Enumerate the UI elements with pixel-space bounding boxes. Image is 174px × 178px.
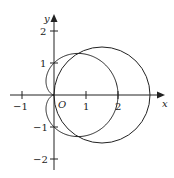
y-tick-label-neg2: −2 bbox=[33, 154, 48, 165]
x-axis-label: x bbox=[162, 98, 168, 109]
y-axis-label: y bbox=[43, 13, 50, 24]
y-tick-label-1: 1 bbox=[40, 58, 46, 69]
y-tick-label-2: 2 bbox=[40, 26, 46, 37]
x-tick-label-1: 1 bbox=[83, 101, 89, 112]
y-axis-arrow-icon bbox=[51, 14, 58, 22]
polar-diagram: x y O −1 1 2 2 1 −1 −2 bbox=[0, 0, 174, 178]
x-tick-label-2: 2 bbox=[115, 101, 121, 112]
y-tick-label-neg1: −1 bbox=[33, 122, 48, 133]
x-tick-label-neg1: −1 bbox=[13, 101, 28, 112]
origin-label: O bbox=[58, 99, 66, 110]
diagram-canvas: x y O −1 1 2 2 1 −1 −2 bbox=[0, 0, 174, 178]
